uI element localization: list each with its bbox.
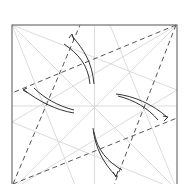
crease-pattern-diagram xyxy=(0,0,188,184)
arrow-right-icon xyxy=(116,94,168,121)
arrow-bottom-icon xyxy=(93,128,122,177)
crease-lines xyxy=(12,25,177,184)
